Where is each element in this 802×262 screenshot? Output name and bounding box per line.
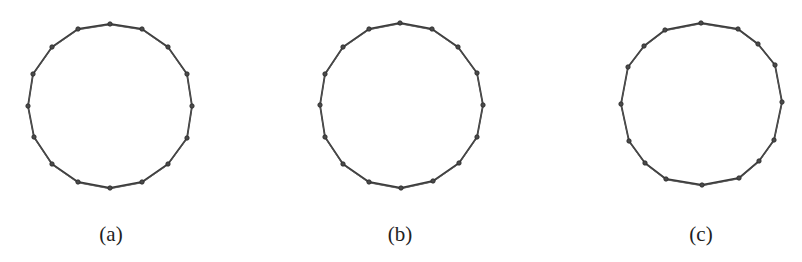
ring-edge: [628, 46, 644, 67]
ring-edge-shadow: [759, 141, 774, 162]
graph-node: [773, 63, 777, 67]
ring-edge-shadow: [28, 75, 33, 107]
ring-edge-shadow: [28, 107, 34, 138]
graph-node: [398, 21, 402, 25]
ring-edge-shadow: [187, 75, 192, 107]
graph-node: [341, 162, 345, 166]
graph-node: [140, 180, 144, 184]
ring-edge-shadow: [142, 165, 168, 183]
ring-edge-shadow: [52, 165, 78, 183]
ring-edge-shadow: [325, 48, 343, 75]
ring-edge: [369, 182, 401, 188]
graph-node: [367, 180, 371, 184]
graph-node: [772, 138, 776, 142]
graph-node: [431, 179, 435, 183]
ring-edge: [168, 47, 187, 74]
graph-node: [737, 176, 741, 180]
ring-edge: [702, 178, 739, 185]
ring-edge: [759, 140, 774, 161]
ring-edge-shadow: [701, 24, 738, 30]
graph-node: [31, 72, 35, 76]
ring-edge-shadow: [168, 48, 187, 75]
ring-edge: [665, 23, 701, 30]
ring-edge: [110, 24, 142, 29]
ring-edge-shadow: [477, 74, 483, 106]
graph-node: [643, 161, 647, 165]
graph-node: [166, 162, 170, 166]
ring-edge-shadow: [621, 105, 629, 142]
graph-node: [185, 136, 189, 140]
graph-node: [663, 28, 667, 32]
ring-edge: [52, 164, 78, 182]
graph-node: [140, 27, 144, 31]
ring-edge-shadow: [665, 24, 701, 31]
ring-edge: [644, 30, 665, 46]
ring-edge-shadow: [400, 24, 432, 30]
ring-edge-shadow: [459, 138, 477, 164]
ring-edge-shadow: [34, 138, 52, 165]
ring-edge: [78, 182, 110, 188]
graph-node: [619, 102, 623, 106]
ring-edge-shadow: [168, 139, 187, 165]
graph-node: [190, 104, 194, 108]
ring-edge: [645, 163, 666, 179]
ring-edge-shadow: [33, 48, 52, 75]
graph-node: [32, 135, 36, 139]
ring-edge-shadow: [477, 106, 483, 138]
ring-edge-shadow: [78, 183, 110, 189]
ring-edge-shadow: [325, 138, 343, 165]
graph-node: [76, 27, 80, 31]
graph-node: [626, 65, 630, 69]
ring-edge-shadow: [758, 45, 775, 66]
graph-node: [50, 162, 54, 166]
ring-edge-shadow: [644, 31, 665, 47]
ring-edge: [142, 164, 168, 182]
graph-node: [699, 21, 703, 25]
ring-edge: [343, 164, 369, 182]
ring-edge: [738, 29, 758, 44]
graph-node: [108, 186, 112, 190]
ring-edge: [433, 163, 459, 181]
graph-node: [50, 45, 54, 49]
graph-node: [323, 135, 327, 139]
ring-graph-b: [318, 21, 485, 190]
graph-node: [185, 72, 189, 76]
graph-node: [26, 104, 30, 108]
ring-edge: [666, 179, 702, 185]
panel-label-b: (b): [360, 222, 440, 247]
graph-node: [756, 42, 760, 46]
ring-edge-shadow: [343, 165, 369, 183]
ring-edge-shadow: [774, 103, 782, 141]
ring-edge-shadow: [775, 66, 782, 103]
graph-node: [475, 135, 479, 139]
ring-edge-shadow: [645, 164, 666, 180]
ring-edge-shadow: [110, 25, 142, 30]
ring-edge: [401, 181, 433, 188]
ring-edge: [78, 24, 110, 29]
ring-edge: [629, 141, 645, 163]
graph-node: [481, 103, 485, 107]
graph-node: [757, 159, 761, 163]
ring-edge: [739, 161, 759, 178]
graph-node: [323, 72, 327, 76]
ring-graph-c: [619, 21, 784, 187]
ring-edge: [343, 29, 369, 47]
graph-node: [430, 27, 434, 31]
ring-edge: [400, 23, 432, 29]
ring-edge-shadow: [110, 183, 142, 189]
graph-node: [76, 180, 80, 184]
ring-edge: [369, 23, 400, 29]
ring-edge-shadow: [320, 75, 325, 106]
ring-edge: [52, 29, 78, 47]
graph-node: [664, 177, 668, 181]
ring-edge: [142, 29, 168, 47]
graph-node: [627, 139, 631, 143]
ring-edge-shadow: [621, 68, 628, 105]
ring-edge-shadow: [666, 180, 702, 186]
graph-node: [700, 183, 704, 187]
graph-node: [318, 103, 322, 107]
ring-edge-shadow: [738, 30, 758, 45]
ring-edge-shadow: [78, 25, 110, 30]
graph-node: [475, 71, 479, 75]
ring-edge: [110, 182, 142, 188]
